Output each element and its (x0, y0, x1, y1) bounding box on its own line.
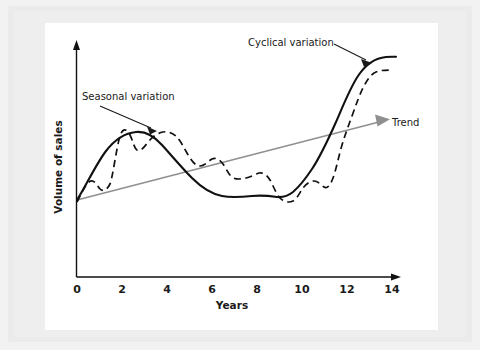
y-axis-arrowhead (73, 40, 80, 50)
chart-axes (73, 40, 401, 281)
x-tick-4: 4 (163, 283, 171, 296)
time-series-chart: 0 2 4 6 8 10 12 14 Years Volume of sales… (0, 0, 480, 350)
x-tick-10: 10 (294, 283, 310, 296)
figure-page: 0 2 4 6 8 10 12 14 Years Volume of sales… (0, 0, 480, 350)
annotation-seasonal: Seasonal variation (82, 91, 175, 135)
y-axis-title: Volume of sales (52, 120, 64, 213)
x-axis-arrowhead (391, 274, 401, 281)
x-tick-2: 2 (118, 283, 126, 296)
x-tick-6: 6 (208, 283, 216, 296)
x-tick-12: 12 (339, 283, 354, 296)
trend-line (77, 122, 379, 200)
annotation-cyclical: Cyclical variation (248, 37, 372, 67)
annotation-seasonal-label: Seasonal variation (82, 91, 175, 102)
annotation-cyclical-label: Cyclical variation (248, 37, 334, 48)
series-trend (77, 115, 390, 201)
x-tick-14: 14 (384, 283, 400, 296)
x-tick-0: 0 (73, 283, 81, 296)
annotation-trend-label: Trend (391, 117, 419, 128)
annotation-seasonal-leader (100, 106, 151, 128)
annotation-cyclical-leader (334, 44, 366, 60)
trend-arrowhead (375, 115, 390, 127)
x-axis-title: Years (215, 299, 248, 311)
x-axis-tick-labels: 0 2 4 6 8 10 12 14 (73, 283, 400, 296)
x-tick-8: 8 (253, 283, 261, 296)
